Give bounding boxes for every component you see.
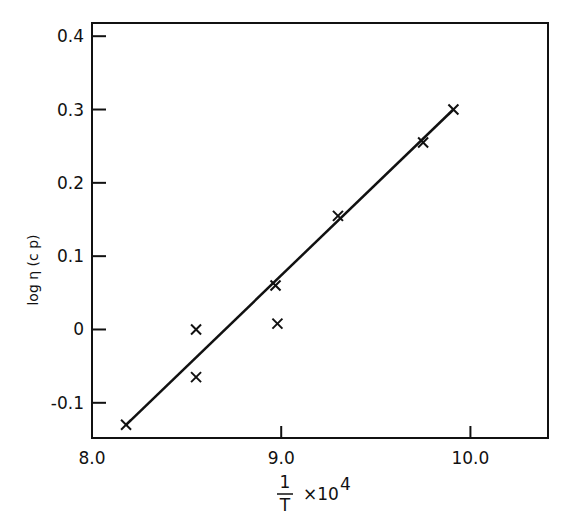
y-tick-label: 0.2: [57, 173, 84, 193]
chart: 0.40.30.20.10-0.1 8.09.010.0 log η (c p)…: [0, 0, 563, 527]
x-axis-label: 1 T ×10 4: [277, 472, 351, 515]
data-point-x-marker: [191, 372, 201, 382]
svg-text:4: 4: [340, 474, 351, 494]
plot-frame: [92, 23, 548, 438]
y-tick-label: 0.1: [57, 246, 84, 266]
data-series: [121, 105, 458, 430]
x-axis-ticks: 8.09.010.0: [78, 426, 489, 468]
y-axis-ticks: 0.40.30.20.10-0.1: [51, 26, 106, 413]
data-point-x-marker: [272, 319, 282, 329]
x-tick-label: 9.0: [268, 448, 295, 468]
y-axis-label: log η (c p): [25, 234, 41, 305]
y-tick-label: 0.4: [57, 26, 84, 46]
x-tick-label: 10.0: [451, 448, 489, 468]
y-tick-label: 0.3: [57, 100, 84, 120]
y-tick-label: -0.1: [51, 393, 84, 413]
x-tick-label: 8.0: [78, 448, 105, 468]
data-point-x-marker: [191, 324, 201, 334]
svg-text:×10: ×10: [303, 484, 339, 504]
svg-text:1: 1: [280, 472, 291, 492]
svg-text:T: T: [279, 495, 291, 515]
y-tick-label: 0: [73, 319, 84, 339]
fit-line: [126, 110, 453, 425]
